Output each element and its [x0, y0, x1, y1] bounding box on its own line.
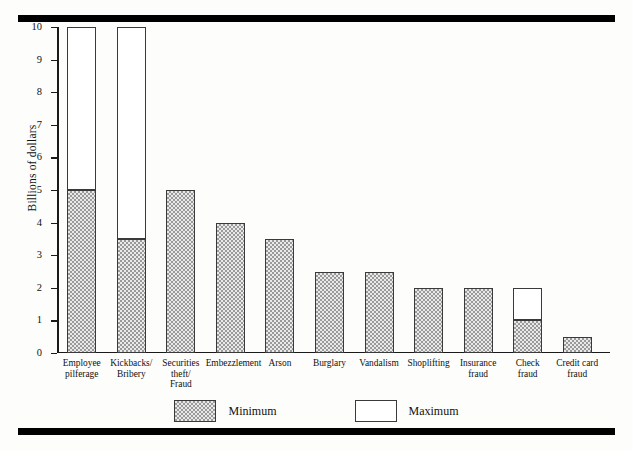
bar-group [67, 27, 96, 353]
bar-segment-maximum [513, 288, 542, 321]
x-axis-label: Embezzlement [206, 358, 256, 369]
bar-series-container [57, 27, 602, 353]
bar-segment-minimum [67, 190, 96, 353]
y-tick-0: 0 [51, 353, 57, 354]
bar-group [315, 272, 344, 354]
y-tick-label-10: 10 [32, 22, 43, 33]
legend-item-minimum: Minimum [174, 400, 276, 422]
y-tick-label-3: 3 [37, 250, 42, 261]
bar-segment-minimum [464, 288, 493, 353]
top-rule [18, 15, 615, 22]
y-tick-label-4: 4 [37, 217, 42, 228]
legend-swatch-maximum [355, 400, 397, 422]
bar-group [216, 223, 245, 353]
bar-group [166, 190, 195, 353]
x-axis-label: Employee pilferage [57, 358, 107, 379]
legend-item-maximum: Maximum [355, 400, 459, 422]
y-tick-label-0: 0 [37, 348, 42, 359]
y-tick-label-5: 5 [37, 185, 42, 196]
x-axis-label: Vandalism [354, 358, 404, 369]
bar-segment-minimum [414, 288, 443, 353]
bar-segment-minimum [315, 272, 344, 354]
y-tick-label-8: 8 [37, 87, 42, 98]
bar-segment-maximum [117, 27, 146, 239]
chart-legend: Minimum Maximum [0, 400, 633, 422]
bar-segment-minimum [216, 223, 245, 353]
x-axis-label: Arson [255, 358, 305, 369]
y-tick-label-9: 9 [37, 54, 42, 65]
bar-segment-minimum [365, 272, 394, 354]
legend-label-maximum: Maximum [409, 404, 459, 419]
x-axis-label: Burglary [305, 358, 355, 369]
x-axis-label: Check fraud [503, 358, 553, 379]
legend-swatch-minimum [174, 400, 216, 422]
bar-segment-maximum [67, 27, 96, 190]
bar-group [365, 272, 394, 354]
bar-segment-minimum [117, 239, 146, 353]
plot-area: 012345678910 [57, 27, 602, 353]
bar-group [414, 288, 443, 353]
y-tick-label-6: 6 [37, 152, 42, 163]
bar-segment-minimum [563, 337, 592, 353]
y-tick-label-1: 1 [37, 315, 42, 326]
bar-group [513, 288, 542, 353]
bar-segment-minimum [513, 320, 542, 353]
x-axis-label: Securities theft/ Fraud [156, 358, 206, 390]
legend-label-minimum: Minimum [228, 404, 276, 419]
chart-figure: Billions of dollars 012345678910 Employe… [0, 22, 633, 432]
bar-group [464, 288, 493, 353]
bar-group [265, 239, 294, 353]
x-axis-label: Shoplifting [404, 358, 454, 369]
y-tick-label-2: 2 [37, 283, 42, 294]
bar-group [563, 337, 592, 353]
y-axis-title: Billions of dollars [26, 78, 38, 258]
bar-segment-minimum [265, 239, 294, 353]
x-axis-label: Kickbacks/ Bribery [107, 358, 157, 379]
x-axis-label: Credit card fraud [552, 358, 602, 379]
y-tick-label-7: 7 [37, 120, 42, 131]
bar-group [117, 27, 146, 353]
bar-segment-minimum [166, 190, 195, 353]
x-axis-label: Insurance fraud [453, 358, 503, 379]
